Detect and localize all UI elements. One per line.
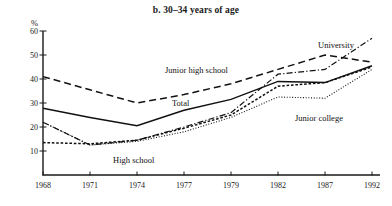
plot-area	[0, 0, 392, 206]
series-group	[43, 38, 372, 145]
axis-lines	[43, 31, 380, 175]
series-line-junior-high-school	[43, 55, 372, 103]
axis-group	[40, 31, 381, 176]
series-line-junior-college	[43, 69, 372, 145]
series-line-university	[43, 38, 372, 145]
chart-figure: b. 30–34 years of age % 60 50 40 30 20 1…	[0, 0, 392, 206]
series-line-total	[43, 66, 372, 126]
